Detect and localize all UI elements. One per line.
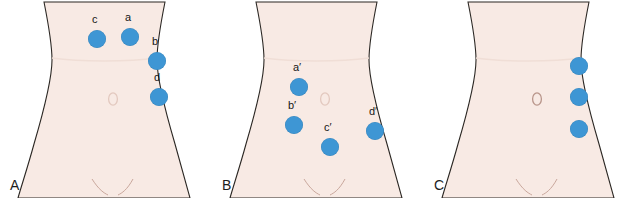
torso-illustration-a — [0, 0, 212, 198]
marker-label-b: b — [152, 36, 158, 47]
marker-label-d: d — [154, 72, 160, 83]
marker-label-d-prime: d′ — [369, 106, 377, 117]
panel-a: A — [0, 0, 212, 198]
marker-label-b-prime: b′ — [288, 100, 296, 111]
marker-label-c-prime: c′ — [324, 122, 332, 133]
marker-b-prime[interactable] — [285, 116, 303, 134]
panel-letter-b: B — [222, 178, 232, 192]
marker-b[interactable] — [148, 52, 166, 70]
marker-label-a: a — [125, 12, 131, 23]
torso-outline — [442, 2, 614, 198]
panel-c: C — [424, 0, 636, 198]
marker-label-c: c — [92, 14, 98, 25]
marker-a-prime[interactable] — [290, 78, 308, 96]
torso-illustration-b — [212, 0, 424, 198]
marker-c[interactable] — [88, 30, 106, 48]
marker-c2[interactable] — [570, 88, 588, 106]
marker-d[interactable] — [150, 88, 168, 106]
panel-letter-c: C — [434, 178, 444, 192]
marker-a[interactable] — [121, 28, 139, 46]
panel-letter-a: A — [10, 178, 20, 192]
marker-label-a-prime: a′ — [293, 62, 301, 73]
marker-c-prime[interactable] — [321, 138, 339, 156]
marker-d-prime[interactable] — [366, 122, 384, 140]
marker-c3[interactable] — [570, 120, 588, 138]
torso-illustration-c — [424, 0, 636, 198]
marker-c1[interactable] — [570, 57, 588, 75]
torso-outline — [230, 2, 402, 198]
figure-container: A B C cabda′b′c′d′ — [0, 0, 636, 198]
panel-b: B — [212, 0, 424, 198]
